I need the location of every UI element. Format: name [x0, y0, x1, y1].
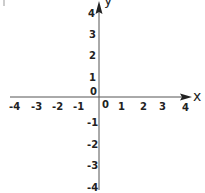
x-tick-label: -4 [9, 101, 20, 112]
y-axis-label: y [104, 0, 112, 8]
coordinate-plane: x y -4 -3 -2 -1 0 1 2 3 4 4 3 2 1 0 -1 -… [0, 0, 205, 193]
x-tick-label: 2 [140, 101, 147, 112]
y-tick-label: 3 [89, 29, 96, 40]
x-tick-label: 1 [118, 101, 125, 112]
x-axis-label: x [193, 88, 201, 104]
x-tick-label: 3 [159, 101, 166, 112]
origin-label: 0 [90, 86, 97, 97]
y-tick-label: -1 [87, 117, 98, 128]
y-tick-label: 4 [88, 8, 95, 19]
y-tick-label: 1 [89, 72, 96, 83]
y-tick-label: -3 [87, 160, 98, 171]
x-tick-label: -2 [52, 101, 63, 112]
x-tick-label: -3 [31, 101, 42, 112]
y-tick-label: -4 [87, 182, 98, 193]
x-tick-label: 4 [182, 102, 189, 113]
x-tick-label: 0 [102, 99, 109, 110]
y-tick-label: 2 [89, 50, 96, 61]
x-tick-label: -1 [73, 101, 84, 112]
y-tick-label: -2 [87, 139, 98, 150]
